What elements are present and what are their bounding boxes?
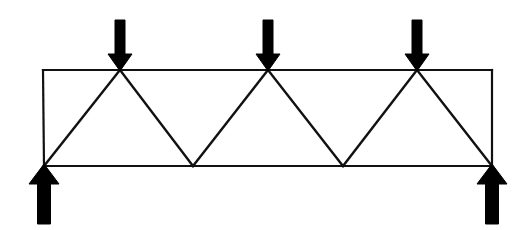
truss-end-post-l-post	[43, 70, 44, 166]
truss-diagram-figure	[0, 0, 527, 230]
truss-diagram-canvas	[0, 0, 527, 230]
